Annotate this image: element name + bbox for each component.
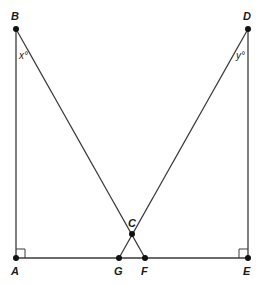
label-e: E	[243, 265, 251, 277]
point-b	[13, 26, 19, 32]
point-a	[13, 255, 19, 261]
angle-label-x: x°	[18, 50, 28, 61]
point-c	[129, 231, 135, 237]
point-f	[142, 255, 148, 261]
label-g: G	[114, 265, 123, 277]
label-d: D	[243, 10, 251, 22]
point-g	[116, 255, 122, 261]
angle-label-y: y°	[235, 50, 245, 61]
segment-dg	[119, 29, 248, 258]
point-e	[245, 255, 251, 261]
label-c: C	[128, 217, 137, 229]
label-a: A	[10, 265, 19, 277]
point-d	[245, 26, 251, 32]
segment-bf	[16, 29, 145, 258]
label-f: F	[141, 265, 148, 277]
geometry-diagram: B D A E G F C x° y°	[0, 0, 263, 284]
label-b: B	[11, 10, 19, 22]
